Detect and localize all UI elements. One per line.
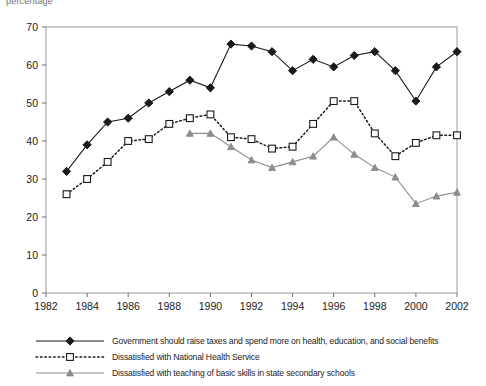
data-point-s2 bbox=[413, 140, 420, 147]
data-point-s3 bbox=[392, 174, 399, 180]
legend-label-1: Government should raise taxes and spend … bbox=[112, 336, 438, 346]
data-point-s1 bbox=[432, 63, 440, 71]
data-point-s3 bbox=[454, 189, 461, 195]
y-tick-label: 30 bbox=[26, 173, 38, 185]
data-point-s1 bbox=[453, 48, 461, 56]
data-point-s2 bbox=[371, 130, 378, 137]
data-point-s2 bbox=[166, 121, 173, 128]
data-point-s1 bbox=[124, 114, 132, 122]
legend-label-2: Dissatisfied with National Health Servic… bbox=[112, 352, 260, 362]
data-point-s2 bbox=[454, 132, 461, 139]
figure-top-caption: percentage bbox=[6, 0, 53, 6]
data-point-s1 bbox=[165, 88, 173, 96]
data-point-s2 bbox=[310, 121, 317, 128]
data-point-s2 bbox=[248, 136, 255, 143]
y-tick-label: 20 bbox=[26, 211, 38, 223]
y-tick-label: 70 bbox=[26, 21, 38, 33]
x-tick-label: 1990 bbox=[199, 300, 223, 312]
data-point-s2 bbox=[84, 176, 91, 183]
data-point-s2 bbox=[269, 145, 276, 152]
data-point-s3 bbox=[248, 157, 255, 163]
y-tick-label: 40 bbox=[26, 135, 38, 147]
chart-figure: percentage 01020304050607019821984198619… bbox=[0, 0, 486, 386]
data-point-s1 bbox=[350, 51, 358, 59]
data-point-s1 bbox=[309, 55, 317, 63]
line-chart-svg: 0102030405060701982198419861988199019921… bbox=[0, 0, 486, 386]
data-point-s3 bbox=[371, 164, 378, 170]
x-tick-label: 1982 bbox=[34, 300, 58, 312]
data-point-s2 bbox=[330, 98, 337, 105]
x-tick-label: 1992 bbox=[240, 300, 264, 312]
y-tick-label: 50 bbox=[26, 97, 38, 109]
data-point-s3 bbox=[228, 143, 235, 149]
y-tick-label: 10 bbox=[26, 249, 38, 261]
data-point-s2 bbox=[186, 115, 193, 122]
data-point-s2 bbox=[63, 191, 70, 198]
x-tick-label: 2002 bbox=[445, 300, 469, 312]
data-point-s2 bbox=[207, 111, 214, 118]
x-tick-label: 1984 bbox=[75, 300, 99, 312]
data-point-s1 bbox=[206, 84, 214, 92]
x-tick-label: 1988 bbox=[158, 300, 182, 312]
data-point-s2 bbox=[228, 134, 235, 141]
data-point-s1 bbox=[227, 40, 235, 48]
data-point-s1 bbox=[145, 99, 153, 107]
x-tick-label: 1998 bbox=[363, 300, 387, 312]
x-tick-label: 1986 bbox=[117, 300, 141, 312]
y-tick-label: 60 bbox=[26, 59, 38, 71]
data-point-s1 bbox=[186, 76, 194, 84]
data-point-s1 bbox=[247, 42, 255, 50]
data-point-s2 bbox=[433, 132, 440, 139]
data-point-s2 bbox=[104, 159, 111, 166]
legend-label-3: Dissatisfied with teaching of basic skil… bbox=[112, 368, 355, 378]
x-tick-label: 1994 bbox=[281, 300, 305, 312]
data-point-s1 bbox=[412, 97, 420, 105]
x-tick-label: 2000 bbox=[404, 300, 428, 312]
data-point-s3 bbox=[330, 134, 337, 140]
legend-diamond-marker-1 bbox=[66, 337, 74, 345]
x-tick-label: 1996 bbox=[322, 300, 346, 312]
data-point-s2 bbox=[125, 138, 132, 145]
data-point-s2 bbox=[145, 136, 152, 143]
y-tick-label: 0 bbox=[32, 287, 38, 299]
data-point-s2 bbox=[289, 143, 296, 150]
data-point-s2 bbox=[351, 98, 358, 105]
data-point-s1 bbox=[330, 63, 338, 71]
legend-square-marker-2 bbox=[67, 354, 74, 361]
data-point-s2 bbox=[392, 153, 399, 160]
